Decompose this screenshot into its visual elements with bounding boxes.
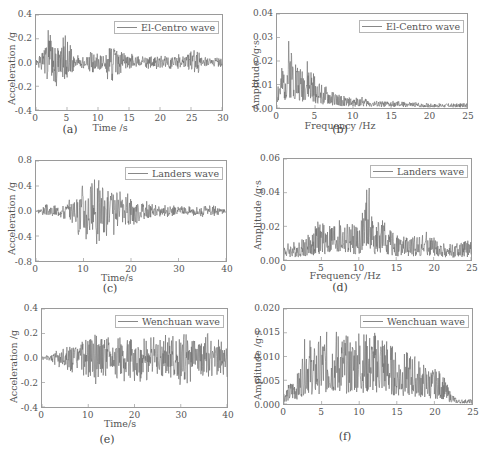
x-tick-label: 30 (169, 264, 189, 274)
legend-label: El-Centro wave (141, 22, 215, 33)
legend: Landers wave (370, 165, 468, 178)
legend-label: El-Centro wave (386, 21, 460, 32)
y-axis-label: Amplitude /g·s (250, 40, 261, 110)
legend-swatch-icon (373, 171, 393, 172)
x-tick-label: 0 (25, 113, 45, 123)
x-tick-label: 5 (311, 407, 331, 417)
y-axis-label: Acceleration /g (6, 32, 17, 105)
x-tick-label: 0 (266, 111, 286, 121)
subfigure-caption: (d) (325, 281, 355, 294)
x-tick-label: 20 (424, 263, 444, 273)
legend-label: Wenchuan wave (142, 316, 220, 327)
x-tick-label: 0 (25, 264, 45, 274)
subfigure-caption: (e) (92, 433, 122, 446)
x-tick-label: 30 (171, 410, 191, 420)
y-axis-label: Amplitude /g·s (252, 180, 263, 250)
x-tick-label: 0 (273, 263, 293, 273)
legend-swatch-icon (362, 26, 382, 27)
x-tick-label: 10 (78, 410, 98, 420)
subfigure-caption: (c) (95, 282, 125, 295)
legend-label: Landers wave (152, 168, 219, 179)
x-axis-label: Time/s (104, 418, 136, 429)
legend: Wenchuan wave (115, 315, 224, 328)
x-axis-label: Frequency /Hz (310, 270, 381, 281)
legend-swatch-icon (363, 321, 383, 322)
x-tick-label: 25 (463, 407, 480, 417)
legend: Landers wave (125, 167, 223, 180)
x-tick-label: 15 (381, 111, 401, 121)
y-axis-label: Amplitude /g·s (252, 330, 263, 400)
legend-swatch-icon (128, 173, 148, 174)
x-tick-label: 0 (273, 407, 293, 417)
x-tick-label: 5 (56, 113, 76, 123)
legend-label: Landers wave (397, 166, 464, 177)
legend: Wenchuan wave (360, 315, 469, 328)
legend-label: Wenchuan wave (387, 316, 465, 327)
x-tick-label: 30 (213, 113, 233, 123)
subfigure-caption: (f) (330, 430, 360, 443)
y-axis-label: Acceleration /g (8, 330, 19, 403)
x-tick-label: 25 (462, 263, 480, 273)
x-tick-label: 10 (73, 264, 93, 274)
x-tick-label: 20 (150, 113, 170, 123)
legend: El-Centro wave (114, 21, 219, 34)
x-tick-label: 15 (387, 407, 407, 417)
x-axis-label: Time /s (92, 122, 127, 133)
y-tick-label: 0.020 (250, 303, 280, 313)
x-tick-label: 40 (217, 264, 237, 274)
y-tick-label: 0.8 (2, 155, 32, 165)
subfigure-caption: (b) (325, 123, 355, 136)
y-tick-label: 0.06 (250, 153, 280, 163)
y-axis-label: Acceleration /g (6, 182, 17, 255)
legend: El-Centro wave (359, 20, 464, 33)
legend-swatch-icon (118, 321, 138, 322)
x-tick-label: 25 (182, 113, 202, 123)
x-tick-label: 15 (386, 263, 406, 273)
y-tick-label: 0.04 (243, 8, 273, 18)
x-tick-label: 25 (458, 111, 478, 121)
x-tick-label: 20 (425, 407, 445, 417)
x-tick-label: 10 (349, 407, 369, 417)
legend-swatch-icon (117, 27, 137, 28)
y-tick-label: 0.4 (8, 303, 38, 313)
x-tick-label: 40 (218, 410, 238, 420)
x-tick-label: 0 (31, 410, 51, 420)
subfigure-caption: (a) (55, 123, 85, 136)
x-tick-label: 20 (420, 111, 440, 121)
y-tick-label: 0.4 (2, 9, 32, 19)
